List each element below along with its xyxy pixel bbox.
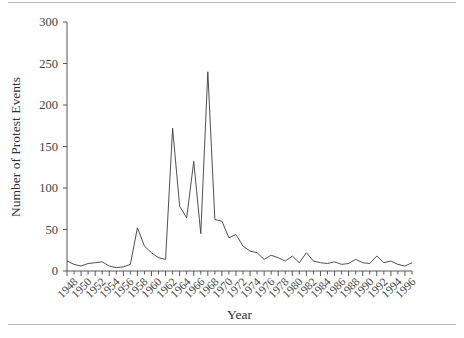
axis-ticks <box>63 22 412 276</box>
axis-lines <box>67 22 412 271</box>
y-tick-label: 200 <box>39 99 58 112</box>
y-tick-label: 150 <box>39 140 58 153</box>
plot-area: 050100150200250300 194819501952195419561… <box>67 22 412 271</box>
y-tick-label: 0 <box>52 265 58 278</box>
y-tick-label: 100 <box>39 182 58 195</box>
y-tick-label: 300 <box>39 16 58 29</box>
y-axis-title: Number of Protest Events <box>6 22 26 271</box>
chart-figure: Number of Protest Events Year 0501001502… <box>0 0 464 338</box>
plot-svg <box>67 22 412 271</box>
y-tick-label: 50 <box>46 223 59 236</box>
data-line-protest-events <box>67 72 412 268</box>
y-axis-title-text: Number of Protest Events <box>8 77 24 217</box>
top-divider-rule <box>8 2 456 3</box>
bottom-divider-rule <box>8 324 456 325</box>
x-axis-title: Year <box>67 307 412 323</box>
y-tick-label: 250 <box>39 57 58 70</box>
